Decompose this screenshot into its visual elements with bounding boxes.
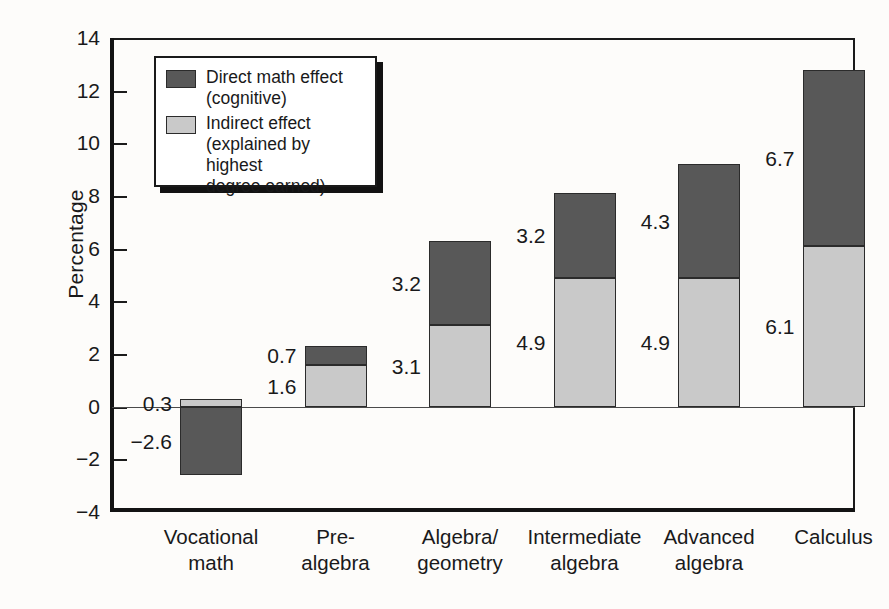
bar-segment-direct[interactable]: −2.6 — [180, 407, 242, 475]
bar-value-label-indirect: 4.9 — [516, 331, 545, 355]
bar-segment-indirect[interactable]: 6.1 — [803, 246, 865, 407]
y-axis-tick-label: 12 — [38, 79, 100, 103]
legend-entry[interactable]: Indirect effect (explained by highest de… — [166, 113, 367, 197]
bar-value-label-indirect: 4.9 — [641, 331, 670, 355]
y-axis-tick-label: −4 — [38, 500, 100, 524]
bar-value-label-direct: 6.7 — [765, 147, 794, 171]
x-axis-category-label: Calculus — [754, 524, 889, 550]
bar-segment-direct[interactable]: 3.2 — [554, 193, 616, 277]
bar-value-label-indirect: 1.6 — [267, 375, 296, 399]
y-axis-tick-label: 10 — [38, 131, 100, 155]
legend-entry[interactable]: Direct math effect (cognitive) — [166, 67, 367, 109]
y-axis-tick-label: 8 — [38, 184, 100, 208]
bar-value-label-direct: 3.2 — [516, 224, 545, 248]
y-axis-tick-label: 4 — [38, 289, 100, 313]
bar-value-label-indirect: 3.1 — [392, 355, 421, 379]
bar-segment-indirect[interactable]: 4.9 — [554, 278, 616, 407]
bar-segment-direct[interactable]: 3.2 — [429, 241, 491, 325]
y-axis-tick-label: 2 — [38, 342, 100, 366]
bar-value-label-direct: 0.7 — [267, 344, 296, 368]
legend-swatch-light — [166, 116, 196, 134]
bar-value-label-direct: 4.3 — [641, 210, 670, 234]
bar-segment-indirect[interactable]: 1.6 — [305, 365, 367, 407]
legend-swatch-dark — [166, 70, 196, 88]
bar-value-label-direct: −2.6 — [131, 430, 172, 454]
bar-value-label-indirect: 6.1 — [765, 315, 794, 339]
stacked-bar-chart-figure: Percentage 14121086420−2−4 0.3−2.61.60.7… — [0, 0, 889, 609]
bar-segment-indirect[interactable]: 3.1 — [429, 325, 491, 407]
legend-entry-label: Direct math effect (cognitive) — [206, 67, 343, 109]
y-axis-tick-label: 0 — [38, 395, 100, 419]
bar-segment-direct[interactable]: 4.3 — [678, 164, 740, 277]
chart-legend: Direct math effect (cognitive)Indirect e… — [154, 56, 377, 187]
bar-segment-direct[interactable]: 0.7 — [305, 346, 367, 364]
legend-entry-label: Indirect effect (explained by highest de… — [206, 113, 367, 197]
bar-segment-indirect[interactable]: 4.9 — [678, 278, 740, 407]
y-axis-tick-label: 6 — [38, 237, 100, 261]
bar-segment-direct[interactable]: 6.7 — [803, 70, 865, 246]
y-axis-tick-label: 14 — [38, 26, 100, 50]
bar-value-label-direct: 3.2 — [392, 272, 421, 296]
bar-segment-indirect[interactable]: 0.3 — [180, 399, 242, 407]
y-axis-tick-label: −2 — [38, 447, 100, 471]
bar-value-label-indirect: 0.3 — [143, 392, 172, 416]
